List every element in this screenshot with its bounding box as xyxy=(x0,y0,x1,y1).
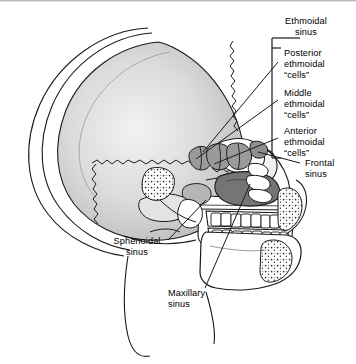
label-sphenoidal-sinus: Sphenoidal sinus xyxy=(104,236,170,258)
upper-teeth xyxy=(211,213,288,228)
label-middle-ethmoidal-cells: Middle ethmoidal “cells” xyxy=(284,88,325,121)
label-ethmoidal-sinus: Ethmoidal sinus xyxy=(277,16,335,38)
label-anterior-ethmoidal-cells: Anterior ethmoidal “cells” xyxy=(284,126,325,159)
label-posterior-ethmoidal-cells: Posterior ethmoidal “cells” xyxy=(284,48,325,81)
label-frontal-sinus: Frontal sinus xyxy=(305,158,334,180)
label-maxillary-sinus: Maxillary sinus xyxy=(168,288,205,310)
neck-anterior-contour xyxy=(124,256,150,356)
neck-posterior-contour xyxy=(206,292,215,344)
pterygoid-plate xyxy=(178,199,203,228)
